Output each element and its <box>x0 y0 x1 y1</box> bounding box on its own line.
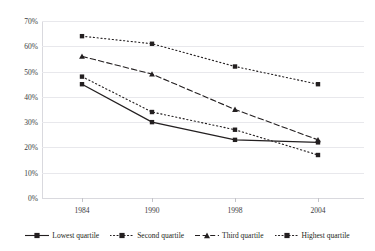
legend-label: Lowest quartile <box>52 232 99 240</box>
series-line-3 <box>82 36 318 84</box>
data-point-3-2 <box>233 64 237 68</box>
series-line-2 <box>82 56 318 139</box>
data-point-3-0 <box>80 34 84 38</box>
legend-key-highest-quartile <box>275 231 299 240</box>
y-tick-label: 10% <box>10 168 38 177</box>
legend-key-third-quartile <box>195 231 219 240</box>
legend-label: Third quartile <box>222 232 263 240</box>
data-point-0-1 <box>150 120 154 124</box>
data-point-2-2 <box>232 107 238 112</box>
x-tick-label: 2004 <box>291 206 345 215</box>
y-tick-label: 40% <box>10 92 38 101</box>
series-line-1 <box>82 77 318 155</box>
x-tick-mark <box>235 198 236 202</box>
x-tick-label: 1984 <box>55 206 109 215</box>
x-tick-label: 1990 <box>125 206 179 215</box>
x-tick-label: 1998 <box>208 206 262 215</box>
legend-item-lowest-quartile[interactable]: Lowest quartile <box>25 231 99 240</box>
legend-label: Second quartile <box>137 232 184 240</box>
data-point-2-0 <box>79 54 85 59</box>
data-point-3-3 <box>316 82 320 86</box>
data-point-3-1 <box>150 42 154 46</box>
x-tick-mark <box>318 198 319 202</box>
data-point-1-3 <box>316 153 320 157</box>
y-tick-label: 50% <box>10 67 38 76</box>
plot-area <box>42 21 364 198</box>
y-tick-label: 70% <box>10 17 38 26</box>
chart-legend: Lowest quartile Second quartile Third qu… <box>0 231 375 240</box>
legend-item-third-quartile[interactable]: Third quartile <box>195 231 263 240</box>
legend-key-second-quartile <box>110 231 134 240</box>
x-tick-mark <box>82 198 83 202</box>
data-point-1-2 <box>233 128 237 132</box>
legend-item-second-quartile[interactable]: Second quartile <box>110 231 184 240</box>
x-tick-mark <box>152 198 153 202</box>
cropped-header-text <box>0 0 375 9</box>
legend-item-highest-quartile[interactable]: Highest quartile <box>275 231 350 240</box>
data-point-1-0 <box>80 74 84 78</box>
y-tick-label: 20% <box>10 143 38 152</box>
y-tick-label: 30% <box>10 118 38 127</box>
y-tick-label: 0% <box>10 194 38 203</box>
series-layer <box>42 21 364 198</box>
data-point-0-0 <box>80 82 84 86</box>
data-point-1-1 <box>150 110 154 114</box>
legend-label: Highest quartile <box>302 232 350 240</box>
gridline-0 <box>42 198 364 199</box>
legend-key-lowest-quartile <box>25 231 49 240</box>
line-chart: 70% 60% 50% 40% 30% 20% 10% 0% 1984 1990… <box>0 0 375 251</box>
data-point-0-2 <box>233 138 237 142</box>
series-line-0 <box>82 84 318 142</box>
y-tick-label: 60% <box>10 42 38 51</box>
